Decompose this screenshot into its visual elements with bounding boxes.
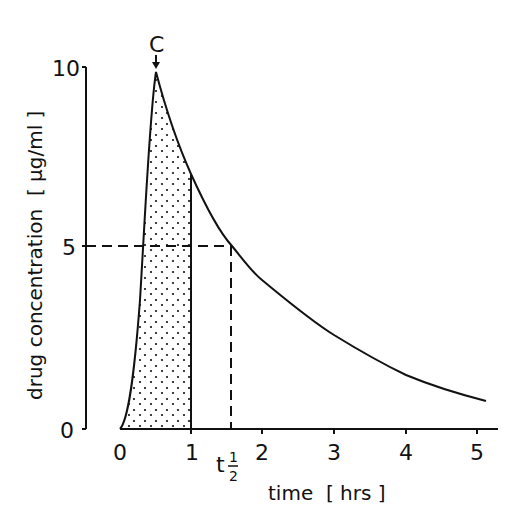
peak-label: C xyxy=(149,32,164,57)
x-axis-title: time [ hrs ] xyxy=(268,481,386,505)
xtick-5: 5 xyxy=(470,440,484,465)
xtick-1: 1 xyxy=(185,440,199,465)
chart: C 10 5 0 0 1 2 3 4 5 t 1 2 time [ hrs ] … xyxy=(0,0,518,520)
svg-text:1: 1 xyxy=(229,449,238,465)
svg-text:2: 2 xyxy=(229,468,238,484)
xtick-3: 3 xyxy=(327,440,341,465)
xtick-0: 0 xyxy=(113,440,127,465)
xtick-2: 2 xyxy=(255,440,269,465)
ytick-0: 0 xyxy=(60,418,74,443)
ytick-5: 5 xyxy=(62,235,76,260)
half-life-label: t xyxy=(216,452,225,477)
y-axis-title: drug concentration [ µg/ml ] xyxy=(23,111,47,400)
xtick-4: 4 xyxy=(399,440,413,465)
ytick-10: 10 xyxy=(52,56,80,81)
shaded-area xyxy=(120,72,191,429)
